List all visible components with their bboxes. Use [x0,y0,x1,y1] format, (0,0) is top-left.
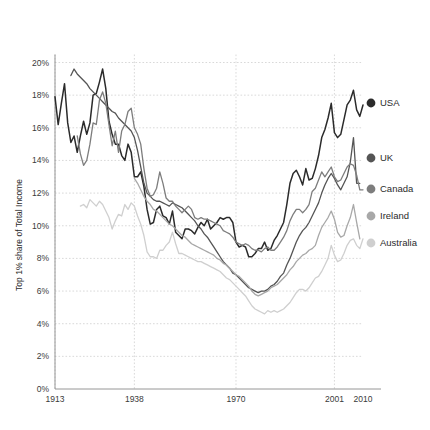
legend-label: UK [380,152,394,163]
y-tick-label: 18% [32,90,49,100]
x-tick-label: 2010 [354,394,373,404]
x-tick-label: 1913 [46,394,65,404]
chart-legend: USAUKCanadaIrelandAustralia [367,97,418,248]
y-tick-label: 12% [32,188,49,198]
legend-swatch-icon [367,185,376,194]
legend-item-uk[interactable]: UK [367,152,394,163]
legend-item-usa[interactable]: USA [367,97,401,108]
y-tick-label: 0% [37,384,50,394]
legend-item-canada[interactable]: Canada [367,183,414,194]
income-share-line-chart: 0%2%4%6%8%10%12%14%16%18%20% 19131938197… [0,0,430,430]
y-tick-label: 6% [37,286,50,296]
series-lines [55,69,363,314]
legend-label: Australia [380,237,418,248]
legend-swatch-icon [367,212,376,221]
legend-label: Canada [380,183,414,194]
x-tick-label: 2001 [325,394,344,404]
y-axis-tick-labels: 0%2%4%6%8%10%12%14%16%18%20% [32,58,49,395]
series-line-australia [80,200,363,314]
legend-swatch-icon [367,239,376,248]
y-tick-label: 10% [32,221,49,231]
chart-container: 0%2%4%6%8%10%12%14%16%18%20% 19131938197… [0,0,430,430]
x-tick-label: 1938 [125,394,144,404]
y-tick-label: 4% [37,319,50,329]
y-axis-title: Top 1% share of Total Income [14,179,24,291]
y-tick-label: 20% [32,58,49,68]
series-line-ireland [134,178,359,296]
legend-swatch-icon [367,154,376,163]
y-tick-label: 2% [37,351,50,361]
series-line-uk [71,69,360,293]
y-tick-label: 14% [32,155,49,165]
x-axis-tick-labels: 19131938197020012010 [46,394,373,404]
legend-label: USA [380,97,400,108]
legend-label: Ireland [380,210,409,221]
y-tick-label: 8% [37,253,50,263]
legend-item-australia[interactable]: Australia [367,237,418,248]
legend-item-ireland[interactable]: Ireland [367,210,409,221]
x-tick-label: 1970 [227,394,246,404]
legend-swatch-icon [367,99,376,108]
y-tick-label: 16% [32,123,49,133]
series-line-canada [77,92,363,252]
